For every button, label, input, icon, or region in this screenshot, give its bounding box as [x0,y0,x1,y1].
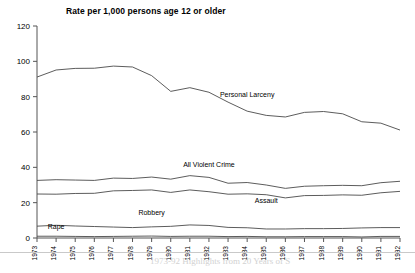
series-label-rape: Rape [48,223,65,231]
x-tick-label: 1977 [107,246,114,261]
series-label-robbery: Robbery [138,209,165,217]
y-tick-label: 40 [21,163,30,172]
series-line-all-violent-crime [37,176,400,189]
footer-divider [0,252,415,253]
y-tick-label: 120 [17,22,31,31]
series-labels: Personal LarcenyAll Violent CrimeAssault… [48,91,278,232]
x-tick-label: 1975 [69,246,76,261]
y-tick-label: 0 [26,234,31,243]
line-chart-plot: 020406080100120 197319741975197619771978… [0,0,415,273]
series-line-robbery [37,225,400,229]
series-line-assault [37,190,400,198]
x-tick-label: 1973 [31,246,38,261]
x-tick-label: 1974 [50,246,57,261]
x-tick-label: 1978 [127,246,134,261]
series-label-personal-larceny: Personal Larceny [220,91,275,99]
series-line-rape [37,236,400,237]
series-lines [37,66,400,237]
series-label-assault: Assault [255,197,278,204]
y-tick-label: 80 [21,93,30,102]
y-tick-label: 100 [17,57,31,66]
series-line-personal-larceny [37,66,400,130]
y-axis: 020406080100120 [17,22,37,243]
y-tick-label: 20 [21,199,30,208]
x-tick-label: 1976 [88,246,95,261]
series-label-all-violent-crime: All Violent Crime [183,161,235,168]
chart-container: Rate per 1,000 persons age 12 or older 0… [0,0,415,273]
y-tick-label: 60 [21,128,30,137]
footer-ghost-text: 1973-92 Highlights from 20 Years of S [150,256,415,272]
